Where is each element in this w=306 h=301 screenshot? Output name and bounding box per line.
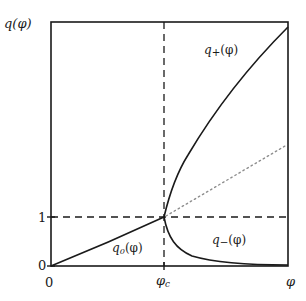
- asymptote-dotted-line: [166, 146, 285, 216]
- phi-c-subscript: c: [165, 279, 170, 289]
- y-tick-label-0: 0: [38, 259, 46, 272]
- curve-label-q-plus: q+(φ): [204, 44, 238, 57]
- plot-frame: [51, 22, 288, 266]
- y-tick-label-1: 1: [38, 211, 46, 224]
- x-tick-label-phi-c: φc: [156, 274, 170, 289]
- curve-label-q-minus: q−(φ): [212, 234, 246, 247]
- q-zero-argument: (φ): [125, 241, 143, 255]
- curve-q-zero: [51, 217, 164, 266]
- curve-label-q-zero: q0(φ): [112, 242, 143, 255]
- q-minus-argument: (φ): [228, 233, 246, 247]
- x-tick-label-0: 0: [45, 276, 53, 289]
- y-axis-label: q(φ): [4, 17, 32, 30]
- bifurcation-diagram-figure: q(φ) φ φc 1 0 0 q+(φ) q0(φ) q−(φ): [0, 0, 306, 301]
- plot-canvas: [0, 0, 306, 301]
- x-axis-label: φ: [286, 275, 295, 288]
- q-plus-argument: (φ): [220, 43, 238, 57]
